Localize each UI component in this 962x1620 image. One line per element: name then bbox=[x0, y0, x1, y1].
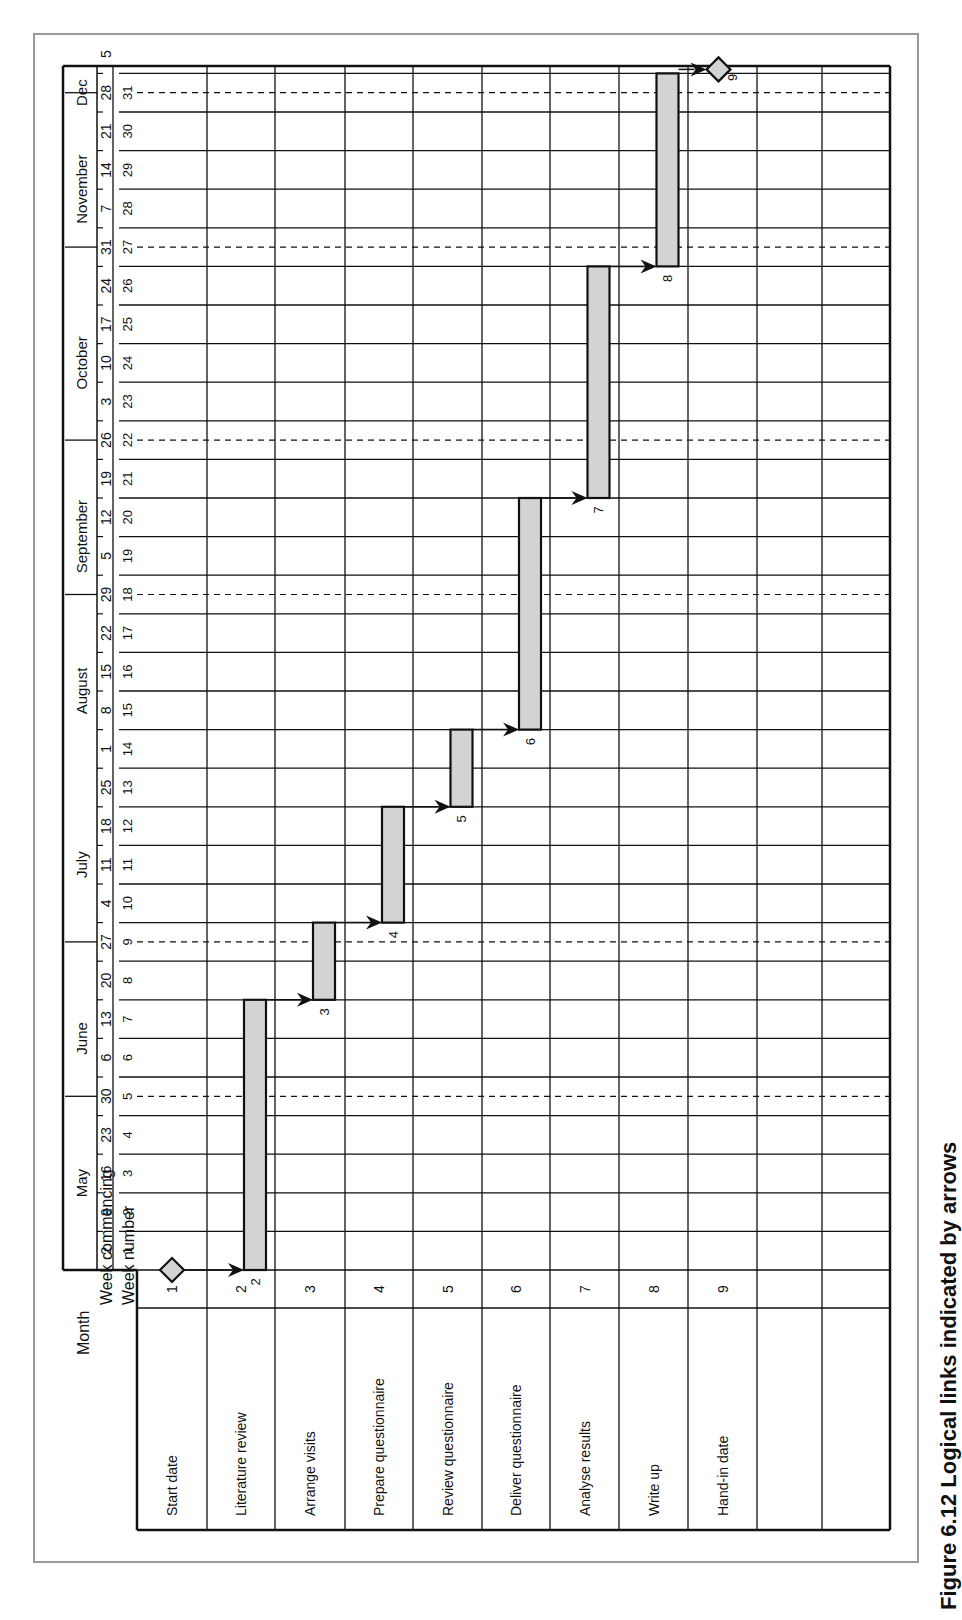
month-label: June bbox=[73, 1022, 90, 1055]
week-commencing-label: 5 bbox=[98, 552, 114, 560]
week-number-label: 22 bbox=[120, 433, 135, 447]
task-bar-id: 5 bbox=[454, 815, 469, 822]
task-bar bbox=[451, 730, 473, 807]
week-commencing-label: 22 bbox=[98, 625, 114, 641]
week-commencing-label: 28 bbox=[98, 85, 114, 101]
task-label: Write up bbox=[646, 1464, 662, 1516]
week-commencing-label: 15 bbox=[98, 664, 114, 680]
task-number: 7 bbox=[577, 1285, 593, 1293]
week-commencing-label: 1 bbox=[98, 745, 114, 753]
week-commencing-label: 11 bbox=[98, 857, 114, 872]
week-number-label: 15 bbox=[120, 703, 135, 717]
task-label: Literature review bbox=[233, 1412, 249, 1516]
week-number-label: 25 bbox=[120, 317, 135, 331]
week-number-label: 14 bbox=[120, 742, 135, 756]
week-number-label: 24 bbox=[120, 356, 135, 370]
week-commencing-label: 7 bbox=[98, 204, 114, 212]
week-number-label: 9 bbox=[120, 938, 135, 945]
week-number-label: 18 bbox=[120, 587, 135, 601]
task-bar-id: 8 bbox=[660, 275, 675, 282]
milestone-start-diamond bbox=[160, 1258, 184, 1282]
task-number: 3 bbox=[302, 1285, 318, 1293]
week-commencing-label: 3 bbox=[98, 397, 114, 405]
header-caption-week-number: Week number bbox=[120, 1205, 137, 1305]
task-number: 8 bbox=[646, 1285, 662, 1293]
week-commencing-label: 6 bbox=[98, 1054, 114, 1062]
header-caption-week-commencing: Week commencing bbox=[98, 1169, 115, 1305]
task-number: 4 bbox=[371, 1285, 387, 1293]
task-label: Review questionnaire bbox=[440, 1382, 456, 1516]
task-bar-id: 2 bbox=[248, 1278, 263, 1285]
week-commencing-label: 5 bbox=[98, 50, 114, 58]
week-number-label: 8 bbox=[120, 977, 135, 984]
week-number-label: 30 bbox=[120, 124, 135, 138]
task-label: Analyse results bbox=[577, 1421, 593, 1516]
month-label: Dec bbox=[73, 79, 90, 106]
month-label: August bbox=[73, 667, 90, 715]
week-commencing-label: 13 bbox=[98, 1011, 114, 1027]
week-number-label: 31 bbox=[120, 85, 135, 99]
task-bar bbox=[657, 73, 679, 266]
task-number: 5 bbox=[440, 1285, 456, 1293]
week-commencing-label: 26 bbox=[98, 432, 114, 448]
week-number-label: 3 bbox=[120, 1170, 135, 1177]
week-number-label: 26 bbox=[120, 278, 135, 292]
milestone-id: 9 bbox=[725, 74, 740, 81]
week-number-label: 19 bbox=[120, 549, 135, 563]
week-number-label: 21 bbox=[120, 471, 135, 485]
task-label: Start date bbox=[164, 1455, 180, 1516]
week-commencing-label: 4 bbox=[98, 899, 114, 907]
task-label: Prepare questionnaire bbox=[371, 1378, 387, 1516]
week-commencing-label: 24 bbox=[98, 278, 114, 294]
week-commencing-label: 20 bbox=[98, 973, 114, 989]
month-label: November bbox=[73, 155, 90, 224]
week-commencing-label: 18 bbox=[98, 818, 114, 834]
month-label: July bbox=[73, 851, 90, 878]
task-bar bbox=[588, 266, 610, 498]
week-number-label: 13 bbox=[120, 780, 135, 794]
week-number-label: 12 bbox=[120, 819, 135, 833]
figure-caption: Figure 6.12 Logical links indicated by a… bbox=[936, 1142, 962, 1610]
task-number: 9 bbox=[715, 1285, 731, 1293]
task-label: Hand-in date bbox=[715, 1436, 731, 1516]
month-label: October bbox=[73, 336, 90, 389]
week-number-label: 20 bbox=[120, 510, 135, 524]
task-label: Deliver questionnaire bbox=[508, 1384, 524, 1516]
week-commencing-label: 14 bbox=[98, 162, 114, 178]
month-label: September bbox=[73, 500, 90, 573]
task-bar-id: 3 bbox=[317, 1008, 332, 1015]
task-bar-id: 7 bbox=[591, 506, 606, 513]
week-commencing-label: 31 bbox=[98, 239, 114, 255]
week-number-label: 4 bbox=[120, 1131, 135, 1138]
week-commencing-label: 12 bbox=[98, 509, 114, 525]
task-bar-id: 6 bbox=[523, 738, 538, 745]
week-commencing-label: 27 bbox=[98, 934, 114, 950]
week-commencing-label: 10 bbox=[98, 355, 114, 371]
week-commencing-label: 8 bbox=[98, 706, 114, 714]
task-bar bbox=[519, 498, 541, 730]
week-number-label: 23 bbox=[120, 394, 135, 408]
week-number-label: 16 bbox=[120, 664, 135, 678]
week-commencing-label: 21 bbox=[98, 123, 114, 139]
week-commencing-label: 23 bbox=[98, 1127, 114, 1143]
week-commencing-label: 29 bbox=[98, 587, 114, 603]
header-caption-month: Month bbox=[75, 1311, 92, 1355]
week-number-label: 28 bbox=[120, 201, 135, 215]
task-number: 1 bbox=[164, 1285, 180, 1293]
task-bar bbox=[244, 1000, 266, 1270]
week-number-label: 5 bbox=[120, 1093, 135, 1100]
week-number-label: 7 bbox=[120, 1015, 135, 1022]
week-number-label: 17 bbox=[120, 626, 135, 640]
week-commencing-label: 25 bbox=[98, 780, 114, 796]
task-bar bbox=[313, 923, 335, 1000]
week-number-label: 10 bbox=[120, 896, 135, 910]
week-number-label: 11 bbox=[120, 858, 135, 872]
task-number: 6 bbox=[508, 1285, 524, 1293]
task-label: Arrange visits bbox=[302, 1431, 318, 1516]
week-commencing-label: 17 bbox=[98, 316, 114, 332]
week-number-label: 29 bbox=[120, 163, 135, 177]
week-number-label: 6 bbox=[120, 1054, 135, 1061]
week-number-label: 27 bbox=[120, 240, 135, 254]
week-commencing-label: 30 bbox=[98, 1088, 114, 1104]
